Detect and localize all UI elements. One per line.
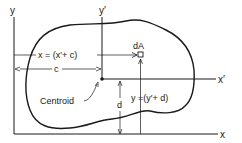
x-relation-label: x = (x′+ c) (38, 50, 77, 60)
centroid-leader (84, 84, 97, 101)
y-axis-label: y (10, 5, 15, 16)
c-label: c (54, 64, 59, 74)
dA-label: dA (133, 41, 144, 51)
parallel-axis-diagram: y x y′ x′ dA x = (x′+ c) c d y =(y′+ d) … (0, 0, 242, 143)
y-prime-axis-label: y′ (99, 5, 106, 16)
x-axis-label: x (220, 129, 225, 140)
d-label: d (117, 100, 122, 110)
centroid-label: Centroid (40, 96, 74, 106)
dA-element (138, 52, 143, 57)
area-boundary (26, 20, 194, 128)
centroid-dot (100, 77, 104, 81)
x-prime-axis-label: x′ (218, 74, 225, 85)
y-relation-label: y =(y′+ d) (131, 93, 168, 103)
